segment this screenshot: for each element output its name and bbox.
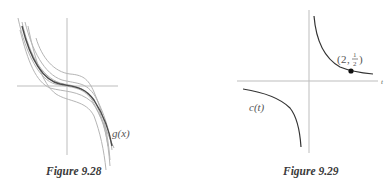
- curve-family: [18, 18, 114, 170]
- svg-text:): ): [359, 53, 363, 66]
- figure-9-29-caption: Figure 9.29: [283, 165, 339, 177]
- svg-text:2: 2: [353, 60, 357, 68]
- svg-text:1: 1: [353, 51, 357, 59]
- c-label: c(t): [249, 101, 265, 114]
- svg-text:2: 2: [341, 53, 347, 65]
- t-axis-label: t: [381, 78, 384, 86]
- svg-text:,: ,: [347, 53, 350, 65]
- figure-canvas: g(x) t ( 2 , 1 2 ) c(t): [0, 0, 389, 185]
- point-label: ( 2 , 1 2 ): [337, 51, 363, 68]
- hyperbola-upper-branch: [314, 16, 373, 74]
- figure-9-28-caption: Figure 9.28: [46, 165, 102, 177]
- figure-9-29-plot: t ( 2 , 1 2 ) c(t): [237, 10, 384, 153]
- g-label: g(x): [112, 127, 130, 140]
- hyperbola-lower-branch: [243, 89, 301, 147]
- point-marker: [348, 68, 353, 73]
- figure-9-28-plot: g(x): [17, 18, 130, 170]
